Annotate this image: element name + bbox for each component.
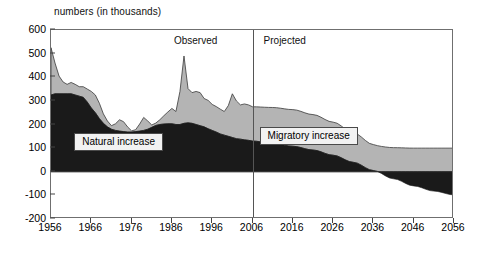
- y-tick--100: -100: [25, 188, 46, 200]
- y-tick-500: 500: [28, 47, 46, 59]
- plot-clip: [51, 30, 452, 217]
- x-axis-tick-labels: 1956196619761986199620062016202620362046…: [0, 221, 478, 241]
- x-tick-mark: [413, 218, 414, 223]
- observed-projected-divider: [253, 30, 254, 217]
- y-tick-mark: [50, 218, 55, 219]
- y-tick-200: 200: [28, 118, 46, 130]
- projected-period-label: Projected: [264, 34, 306, 45]
- y-tick-300: 300: [28, 94, 46, 106]
- natural-increase-legend: Natural increase: [74, 133, 163, 151]
- plot-area: [50, 29, 453, 218]
- y-tick-mark: [50, 52, 55, 53]
- y-tick-mark: [50, 99, 55, 100]
- x-tick-mark: [131, 218, 132, 223]
- x-tick-mark: [171, 218, 172, 223]
- y-axis-title: numbers (in thousands): [54, 6, 161, 17]
- y-tick-mark: [50, 147, 55, 148]
- y-tick-mark: [50, 170, 55, 171]
- stacked-area-svg: [51, 30, 452, 217]
- x-tick-1956: 1956: [38, 221, 61, 233]
- y-tick-0: 0: [40, 165, 46, 177]
- y-axis-tick-labels: 6005004003002001000-100-200: [0, 29, 46, 218]
- y-tick-mark: [50, 194, 55, 195]
- y-tick-mark: [50, 29, 55, 30]
- y-tick-400: 400: [28, 70, 46, 82]
- population-change-chart: numbers (in thousands) 60050040030020010…: [0, 0, 478, 253]
- x-tick-mark: [372, 218, 373, 223]
- y-tick-100: 100: [28, 141, 46, 153]
- x-tick-mark: [332, 218, 333, 223]
- x-tick-mark: [90, 218, 91, 223]
- observed-period-label: Observed: [174, 34, 223, 45]
- x-tick-mark: [252, 218, 253, 223]
- x-tick-mark: [292, 218, 293, 223]
- y-tick-mark: [50, 123, 55, 124]
- x-tick-mark: [211, 218, 212, 223]
- x-tick-mark: [453, 218, 454, 223]
- y-tick-600: 600: [28, 23, 46, 35]
- migratory-increase-legend: Migratory increase: [260, 127, 358, 145]
- y-tick-mark: [50, 76, 55, 77]
